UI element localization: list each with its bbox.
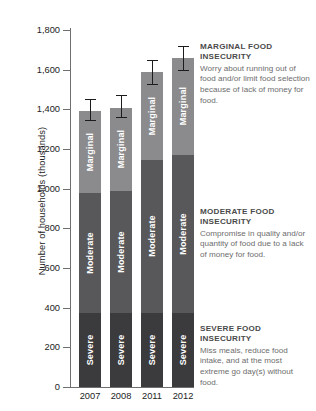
error-bar-cap-lower-2008 <box>116 117 127 118</box>
y-axis-tick-label: 1,800 <box>37 25 60 35</box>
error-bar-stem-2008 <box>121 95 122 117</box>
x-axis-label-2007: 2007 <box>73 391 107 401</box>
y-axis-tick-label: 1,600 <box>37 65 60 75</box>
bar-segment-marginal-2011[interactable]: Marginal <box>141 72 163 160</box>
bar-segment-severe-2007[interactable]: Severe <box>79 313 101 387</box>
x-axis-label-2011: 2011 <box>135 391 169 401</box>
y-axis-tick-label: 1,200 <box>37 144 60 154</box>
bar-segment-label: Severe <box>178 335 188 366</box>
error-bar-cap-lower-2007 <box>85 120 96 121</box>
y-axis-tick-label: 600 <box>44 263 60 273</box>
annotation-severe-title: Severe food insecurity <box>200 324 312 345</box>
bar-segment-label: Severe <box>147 335 157 366</box>
bar-segment-label: Severe <box>85 335 95 366</box>
bar-segment-moderate-2011[interactable]: Moderate <box>141 160 163 313</box>
y-axis-tick <box>63 149 70 150</box>
bar-segment-moderate-2007[interactable]: Moderate <box>79 193 101 313</box>
x-axis-label-2008: 2008 <box>104 391 138 401</box>
bar-2008[interactable]: SevereModerateMarginal <box>110 0 132 411</box>
error-bar-stem-2012 <box>183 46 184 70</box>
annotation-marginal-title: Marginal food insecurity <box>200 42 312 63</box>
error-bar-cap-upper-2008 <box>116 95 127 96</box>
error-bar-cap-upper-2012 <box>178 46 189 47</box>
error-bar-stem-2011 <box>152 60 153 84</box>
bar-segment-severe-2008[interactable]: Severe <box>110 313 132 387</box>
bar-segment-severe-2012[interactable]: Severe <box>172 313 194 387</box>
bar-segment-label: Moderate <box>116 231 126 273</box>
annotation-moderate-body: Compromise in quality and/or quantity of… <box>200 229 312 261</box>
annotation-marginal: Marginal food insecurity Worry about run… <box>200 42 312 107</box>
y-axis-tick <box>63 70 70 71</box>
y-axis-tick-label: 400 <box>44 303 60 313</box>
bar-segment-moderate-2008[interactable]: Moderate <box>110 191 132 313</box>
bar-segment-label: Severe <box>116 335 126 366</box>
bar-segment-label: Moderate <box>178 213 188 255</box>
y-axis-tick <box>63 109 70 110</box>
y-axis-tick <box>63 308 70 309</box>
bar-segment-label: Moderate <box>85 232 95 274</box>
bar-segment-marginal-2008[interactable]: Marginal <box>110 108 132 190</box>
y-axis-tick-label: 1,400 <box>37 104 60 114</box>
annotation-severe: Severe food insecurity Miss meals, reduc… <box>200 324 312 389</box>
y-axis-tick-label: 200 <box>44 342 60 352</box>
annotation-marginal-body: Worry about running out of food and/or l… <box>200 64 312 107</box>
y-axis-tick <box>63 30 70 31</box>
bar-segment-severe-2011[interactable]: Severe <box>141 313 163 387</box>
y-axis-tick-label: 800 <box>44 223 60 233</box>
x-axis-label-2012: 2012 <box>166 391 200 401</box>
bar-segment-marginal-2012[interactable]: Marginal <box>172 58 194 155</box>
bar-2007[interactable]: SevereModerateMarginal <box>79 0 101 411</box>
bar-segment-moderate-2012[interactable]: Moderate <box>172 155 194 313</box>
error-bar-cap-lower-2011 <box>147 84 158 85</box>
y-axis-tick <box>63 347 70 348</box>
bar-segment-label: Moderate <box>147 216 157 258</box>
y-axis-tick-label: 0 <box>55 382 60 392</box>
annotation-moderate-title: Moderate food insecurity <box>200 207 312 228</box>
y-axis-tick <box>63 387 70 388</box>
error-bar-cap-upper-2011 <box>147 60 158 61</box>
bar-segment-label: Marginal <box>147 96 157 135</box>
annotation-moderate: Moderate food insecurity Compromise in q… <box>200 207 312 261</box>
annotation-severe-body: Miss meals, reduce food intake, and at t… <box>200 346 312 389</box>
error-bar-stem-2007 <box>90 99 91 120</box>
bar-segment-label: Marginal <box>85 133 95 172</box>
error-bar-cap-lower-2012 <box>178 70 189 71</box>
y-axis-tick <box>63 268 70 269</box>
y-axis-title: Number of households (thousands) <box>37 81 47 321</box>
stacked-bar-chart: Number of households (thousands) 0200400… <box>0 0 316 411</box>
bar-segment-label: Marginal <box>116 130 126 169</box>
bar-segment-marginal-2007[interactable]: Marginal <box>79 111 101 192</box>
y-axis-line <box>70 28 71 388</box>
y-axis-tick-label: 1,000 <box>37 184 60 194</box>
y-axis-tick <box>63 189 70 190</box>
y-axis-tick <box>63 228 70 229</box>
bar-segment-label: Marginal <box>178 87 188 126</box>
error-bar-cap-upper-2007 <box>85 99 96 100</box>
